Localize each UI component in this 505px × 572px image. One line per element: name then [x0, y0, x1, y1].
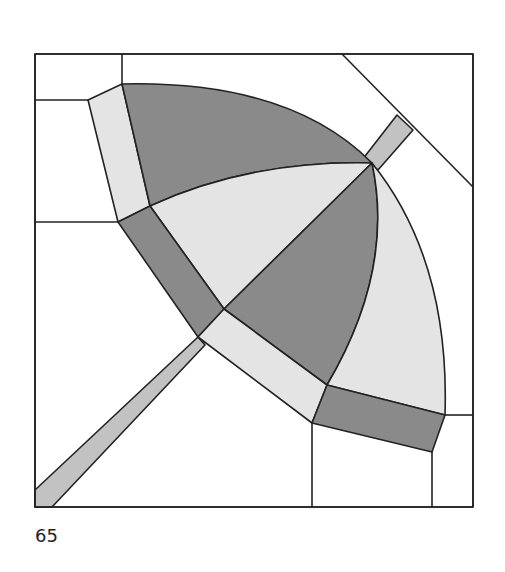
umbrella-quilt-block: [0, 0, 505, 572]
figure-number: 65: [35, 525, 58, 546]
